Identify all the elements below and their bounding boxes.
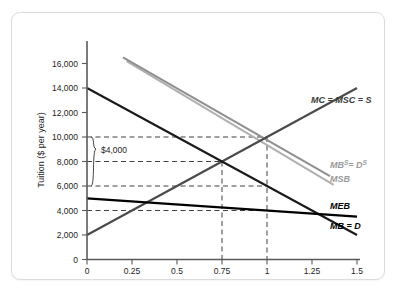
y-tick-label-14000: 14,000 [52,83,78,93]
y-tick-label-16000: 16,000 [52,59,78,69]
curve-label-msb: MSB [330,174,351,184]
curve-label-mc-msc-s: MC = MSC = S [311,95,372,105]
figure-card: 0 2,000 4,000 6,000 8,000 10,000 12,000 … [11,12,385,280]
y-tick-label-8000: 8,000 [57,157,79,167]
curve-label-meb: MEB [330,201,351,211]
x-tick-label-025: 0.25 [124,266,141,276]
x-tick-label-15: 1.5 [351,266,363,276]
x-tick-label-125: 1.25 [304,266,321,276]
y-tick-label-10000: 10,000 [52,132,78,142]
y-tick-label-4000: 4,000 [57,206,79,216]
x-tick-label-0: 0 [85,266,90,276]
chart-canvas: 0 2,000 4,000 6,000 8,000 10,000 12,000 … [12,13,386,281]
x-tick-label-1: 1 [265,266,270,276]
axes [87,41,360,260]
x-tick-label-05: 0.5 [171,266,183,276]
curve-label-mbs-ds: MBS= DS [330,159,368,171]
gap-annotation-label: $4,000 [101,145,127,155]
y-tick-label-12000: 12,000 [52,108,78,118]
curve-label-mbs-base: MB [330,160,344,170]
series-group [87,57,357,235]
x-tick-label-075: 0.75 [214,266,231,276]
y-tick-label-2000: 2,000 [57,230,79,240]
dashed-guides [87,137,267,260]
y-axis-title: Tuition ($ per year) [36,112,46,188]
curve-label-mbs-mid: = D [348,160,363,170]
curve-label-mbs-sup2: S [363,159,368,166]
curve-label-mb-d: MB = D [330,221,361,231]
y-tick-label-6000: 6,000 [57,181,79,191]
x-tick-labels: 0 0.25 0.5 0.75 1 1.25 1.5 [85,266,364,276]
y-tick-labels: 0 2,000 4,000 6,000 8,000 10,000 12,000 … [52,59,78,265]
y-tick-label-0: 0 [73,255,78,265]
